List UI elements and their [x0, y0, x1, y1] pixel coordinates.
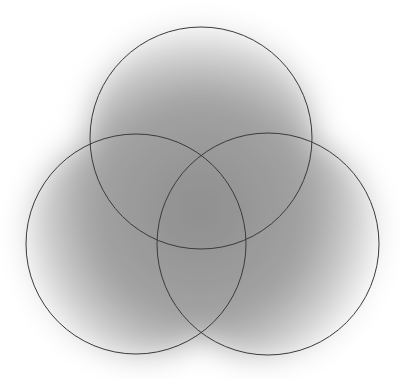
shading — [22, 23, 383, 359]
venn-diagram — [0, 0, 401, 379]
